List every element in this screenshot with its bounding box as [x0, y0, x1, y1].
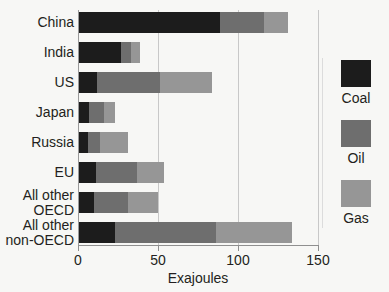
- gridline: [158, 10, 159, 245]
- x-axis-tick-label: 100: [226, 252, 249, 268]
- plot-area: [78, 10, 318, 245]
- legend-item-gas[interactable]: Gas: [325, 180, 389, 226]
- bar-segment-oil: [94, 192, 128, 213]
- bar-segment-oil: [220, 12, 263, 33]
- bar-segment-coal: [78, 102, 89, 123]
- legend-label-oil: Oil: [325, 150, 387, 166]
- legend-label-coal: Coal: [325, 90, 387, 106]
- gridline: [238, 10, 239, 245]
- y-axis-line: [78, 10, 79, 246]
- x-axis-tick: [158, 245, 159, 251]
- category-label: China: [37, 15, 74, 30]
- bar-segment-gas: [160, 72, 213, 93]
- category-label: Russia: [31, 135, 74, 150]
- bar-segment-oil: [89, 102, 103, 123]
- legend-label-gas: Gas: [325, 210, 387, 226]
- bar-segment-gas: [131, 42, 141, 63]
- category-label: India: [44, 45, 74, 60]
- bar-segment-gas: [128, 192, 158, 213]
- category-label: EU: [55, 165, 74, 180]
- x-axis-tick-label: 150: [306, 252, 329, 268]
- stacked-bar-chart: 050100150 ChinaIndiaUSJapanRussiaEUAll o…: [0, 0, 389, 292]
- bar-segment-oil: [96, 162, 138, 183]
- x-axis-tick: [78, 245, 79, 251]
- bar-segment-gas: [216, 222, 293, 243]
- bar-segment-coal: [78, 192, 94, 213]
- legend-swatch-gas: [341, 180, 371, 207]
- legend-swatch-coal: [341, 60, 371, 87]
- bar-segment-coal: [78, 12, 220, 33]
- bar-segment-coal: [78, 72, 97, 93]
- x-axis-title: Exajoules: [168, 270, 229, 286]
- bar-segment-gas: [264, 12, 288, 33]
- bar-segment-gas: [137, 162, 164, 183]
- bar-segment-coal: [78, 42, 121, 63]
- category-label: All other OECD: [23, 188, 74, 218]
- bar-segment-gas: [104, 102, 115, 123]
- legend-swatch-oil: [341, 120, 371, 147]
- x-axis-tick: [318, 245, 319, 251]
- category-label: All other non-OECD: [6, 218, 74, 248]
- bar-segment-coal: [78, 132, 88, 153]
- x-axis-line: [78, 245, 319, 246]
- gridline: [318, 10, 319, 245]
- legend-item-coal[interactable]: Coal: [325, 60, 389, 106]
- bar-segment-oil: [121, 42, 131, 63]
- x-axis-tick-label: 50: [150, 252, 166, 268]
- legend-item-oil[interactable]: Oil: [325, 120, 389, 166]
- category-label: Japan: [36, 105, 74, 120]
- category-label: US: [55, 75, 74, 90]
- bar-segment-oil: [97, 72, 159, 93]
- x-axis-tick: [238, 245, 239, 251]
- bar-segment-coal: [78, 162, 96, 183]
- bar-segment-oil: [115, 222, 216, 243]
- bar-segment-oil: [88, 132, 101, 153]
- x-axis-tick-label: 0: [74, 252, 82, 268]
- bar-segment-gas: [100, 132, 127, 153]
- legend-divider: [322, 58, 323, 228]
- bar-segment-coal: [78, 222, 115, 243]
